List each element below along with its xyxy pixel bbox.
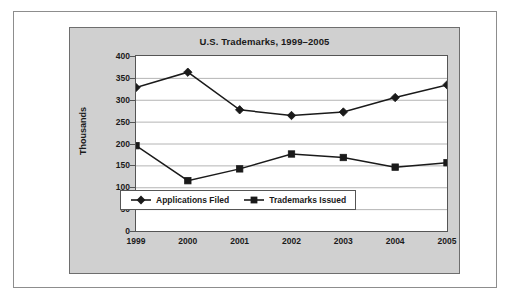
data-point <box>136 142 139 148</box>
x-tick-label: 2004 <box>372 236 418 246</box>
y-tick-label: 300 <box>96 95 130 105</box>
x-tick-label: 2005 <box>424 236 470 246</box>
legend-item[interactable]: Trademarks Issued <box>243 194 346 206</box>
legend-item[interactable]: Applications Filed <box>130 194 229 206</box>
x-axis-tick-labels: 1999200020012002200320042005 <box>135 236 448 252</box>
data-point <box>444 160 447 166</box>
legend-label: Applications Filed <box>156 195 229 205</box>
data-point <box>236 166 242 172</box>
legend-diamond-marker-icon <box>130 194 152 206</box>
x-tick-label: 1999 <box>113 236 159 246</box>
chart-legend: Applications FiledTrademarks Issued <box>120 190 356 210</box>
data-point <box>287 111 295 119</box>
y-tick-label: 150 <box>96 160 130 170</box>
chart-panel: U.S. Trademarks, 1999–2005 Thousands 050… <box>69 27 460 274</box>
legend-square-marker-icon <box>243 194 265 206</box>
y-tick-label: 250 <box>96 117 130 127</box>
y-axis-title: Thousands <box>78 86 88 176</box>
data-point <box>443 81 447 89</box>
chart-title: U.S. Trademarks, 1999–2005 <box>70 36 459 47</box>
data-point <box>392 164 398 170</box>
legend-label: Trademarks Issued <box>269 195 346 205</box>
y-tick-label: 400 <box>96 51 130 61</box>
y-tick-label: 0 <box>96 226 130 236</box>
data-point <box>136 83 140 91</box>
figure-frame: U.S. Trademarks, 1999–2005 Thousands 050… <box>13 11 497 288</box>
y-tick-label: 200 <box>96 139 130 149</box>
x-tick-label: 2000 <box>165 236 211 246</box>
x-tick-label: 2003 <box>320 236 366 246</box>
data-point <box>339 108 347 116</box>
x-tick-label: 2002 <box>269 236 315 246</box>
data-point <box>288 151 294 157</box>
data-point <box>340 154 346 160</box>
y-tick-label: 350 <box>96 73 130 83</box>
x-tick-label: 2001 <box>217 236 263 246</box>
data-point <box>185 177 191 183</box>
